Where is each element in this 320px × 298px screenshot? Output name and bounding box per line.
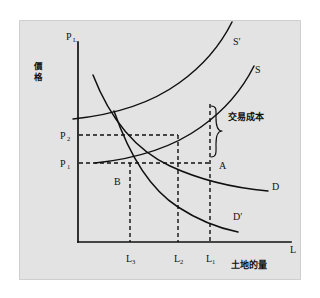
curve-label-s: S xyxy=(255,64,261,75)
guideline-group xyxy=(79,104,211,242)
transaction-cost-label: 交易成本 xyxy=(228,111,265,122)
y-tick-label-p2: P xyxy=(60,130,66,141)
x-tick-label-l2-subscript: 2 xyxy=(180,258,183,265)
y-tick-label-p1: P xyxy=(60,158,66,169)
y-tick-label-group: P 2 P 1 xyxy=(60,130,70,170)
curve-group xyxy=(73,22,268,232)
demand-shifted-curve xyxy=(114,111,238,232)
y-axis-symbol-subscript: L xyxy=(73,36,77,43)
x-tick-label-l3-subscript: 3 xyxy=(132,258,135,265)
curve-label-group: S′ S D D′ xyxy=(233,36,279,222)
supply-shifted-curve xyxy=(73,22,232,119)
y-tick-label-p1-subscript: 1 xyxy=(67,163,70,170)
x-tick-label-l1-subscript: 1 xyxy=(212,258,215,265)
x-axis-symbol: L xyxy=(290,244,296,255)
y-tick-label-p2-subscript: 2 xyxy=(67,135,70,142)
y-axis-title-group: 價 格 xyxy=(33,61,43,82)
y-axis-title-char-2: 格 xyxy=(34,72,43,82)
curve-label-d: D xyxy=(272,181,279,192)
curve-label-d-prime: D′ xyxy=(233,211,242,222)
supply-demand-chart: 價 格 P L L P 2 P 1 L 3 L 2 L 1 土地的量 xyxy=(0,0,320,298)
point-label-a: A xyxy=(219,160,227,171)
x-tick-label-group: L 3 L 2 L 1 xyxy=(126,253,215,265)
axis-symbol-group: P L L xyxy=(66,31,296,255)
point-label-b: B xyxy=(114,176,121,187)
y-axis-title-char-1: 價 xyxy=(33,61,43,71)
demand-curve xyxy=(93,75,268,191)
figure-root: 價 格 P L L P 2 P 1 L 3 L 2 L 1 土地的量 xyxy=(0,0,320,298)
y-axis-symbol: P xyxy=(66,31,72,42)
x-axis-title: 土地的量 xyxy=(231,259,267,270)
brace-icon xyxy=(211,106,222,157)
transaction-cost-brace xyxy=(211,106,222,157)
curve-label-s-prime: S′ xyxy=(233,36,241,47)
